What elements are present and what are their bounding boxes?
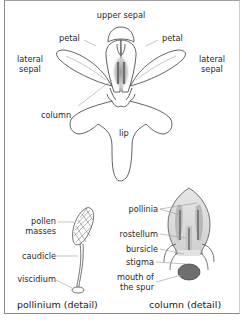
column-drawing [164, 188, 214, 280]
label-caudicle: caudicle [10, 251, 56, 261]
lip [70, 101, 172, 181]
label-stigma: stigma [100, 257, 154, 267]
label-pollen-masses: pollen masses [20, 216, 56, 236]
lateral-sepal-left [57, 50, 112, 86]
label-lateral-sepal-right: lateral sepal [196, 54, 228, 74]
label-petal-left: petal [59, 33, 80, 43]
lateral-sepal-right [130, 50, 185, 86]
caption-column-detail: column (detail) [149, 299, 221, 310]
label-pollinia: pollinia [106, 204, 158, 214]
label-column: column [41, 110, 71, 120]
flower [57, 27, 186, 181]
label-bursicle: bursicle [100, 244, 158, 254]
pollinium-drawing [72, 208, 94, 293]
label-viscidium: viscidium [6, 274, 56, 284]
label-upper-sepal: upper sepal [96, 10, 146, 20]
label-mouth-of-spur: mouth of the spur [100, 272, 154, 292]
label-lateral-sepal-left: lateral sepal [14, 54, 46, 74]
label-petal-right: petal [162, 33, 183, 43]
caption-pollinium-detail: pollinium (detail) [17, 299, 98, 310]
label-rostellum: rostellum [100, 229, 158, 239]
label-lip: lip [119, 128, 129, 138]
